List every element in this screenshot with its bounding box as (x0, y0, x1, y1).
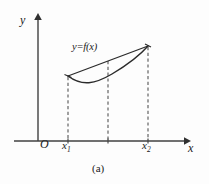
x2-tick-label: x2 (142, 140, 151, 154)
figure-caption: (a) (92, 163, 104, 174)
x-axis-label: x (188, 142, 193, 154)
x1-tick-label: x1 (62, 140, 71, 154)
x1-tick-label-subscript: 1 (67, 145, 71, 154)
figure-canvas (0, 0, 209, 184)
convex-function-figure: y x O y=f(x) x1 x2 (a) (0, 0, 209, 184)
x2-tick-label-subscript: 2 (147, 145, 151, 154)
y-axis-label: y (20, 14, 25, 26)
function-label: y=f(x) (72, 42, 97, 53)
origin-label: O (40, 138, 49, 150)
y-axis (34, 13, 42, 141)
y-axis-arrow-icon (34, 13, 42, 20)
